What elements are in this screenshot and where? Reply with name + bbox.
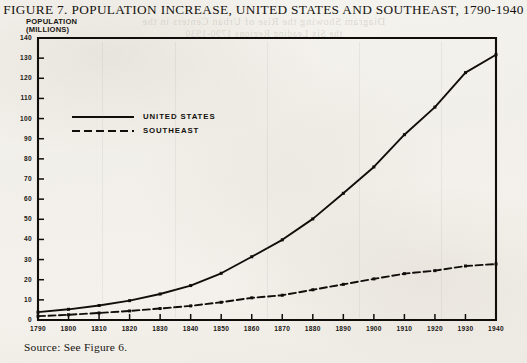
legend-label-united-states: UNITED STATES (143, 112, 216, 121)
y-axis-tick-label: 120 (6, 74, 32, 81)
data-point-marker (98, 304, 101, 307)
y-axis-tick-label: 60 (6, 195, 32, 202)
data-point-marker (342, 283, 345, 286)
chart-plot-area: 0102030405060708090100110120130140179018… (0, 0, 527, 363)
x-axis-tick-label: 1790 (22, 325, 54, 332)
data-point-marker (159, 293, 162, 296)
data-point-marker (281, 238, 284, 241)
x-axis-tick-label: 1860 (236, 325, 268, 332)
y-axis-tick-label: 90 (6, 135, 32, 142)
x-axis-tick-label: 1940 (480, 325, 512, 332)
y-axis-tick-label: 10 (6, 296, 32, 303)
data-point-marker (189, 304, 192, 307)
y-axis-tick-label: 0 (6, 316, 32, 323)
x-axis-tick-label: 1830 (144, 325, 176, 332)
data-point-marker (128, 299, 131, 302)
ghost-gridline (175, 42, 176, 318)
x-axis-tick-label: 1810 (83, 325, 115, 332)
y-axis-tick-label: 110 (6, 94, 32, 101)
ghost-gridline (359, 42, 360, 318)
figure-page: Diagram Showing the Rise of Urban Center… (0, 0, 527, 363)
x-axis-tick-label: 1850 (205, 325, 237, 332)
y-axis-tick-label: 20 (6, 276, 32, 283)
y-axis-tick-label: 140 (6, 34, 32, 41)
chart-svg (0, 0, 527, 363)
data-point-marker (464, 71, 467, 74)
ghost-gridline (102, 42, 103, 318)
data-point-marker (433, 269, 436, 272)
data-point-marker (250, 296, 253, 299)
data-point-marker (250, 255, 253, 258)
x-axis-tick-label: 1800 (53, 325, 85, 332)
data-point-marker (67, 313, 70, 316)
ghost-gridline (441, 42, 442, 318)
data-point-marker (372, 165, 375, 168)
legend-label-southeast: SOUTHEAST (143, 126, 199, 135)
y-axis-tick-label: 80 (6, 155, 32, 162)
data-point-marker (372, 277, 375, 280)
x-axis-tick-label: 1840 (175, 325, 207, 332)
data-point-marker (495, 53, 498, 56)
data-point-marker (281, 294, 284, 297)
x-axis-tick-label: 1920 (419, 325, 451, 332)
data-point-marker (37, 311, 40, 314)
data-point-marker (220, 272, 223, 275)
y-axis-tick-label: 130 (6, 54, 32, 61)
x-axis-tick-label: 1870 (266, 325, 298, 332)
source-note: Source: See Figure 6. (24, 341, 127, 353)
x-axis-tick-label: 1900 (358, 325, 390, 332)
data-point-marker (403, 133, 406, 136)
x-axis-tick-label: 1930 (449, 325, 481, 332)
x-axis-tick-label: 1890 (327, 325, 359, 332)
data-point-marker (98, 311, 101, 314)
data-point-marker (67, 308, 70, 311)
y-axis-tick-label: 50 (6, 215, 32, 222)
data-point-marker (342, 192, 345, 195)
data-point-marker (311, 288, 314, 291)
x-axis-tick-label: 1820 (114, 325, 146, 332)
data-point-marker (311, 217, 314, 220)
y-axis-tick-label: 70 (6, 175, 32, 182)
data-point-marker (128, 309, 131, 312)
data-point-marker (220, 301, 223, 304)
x-axis-tick-label: 1910 (388, 325, 420, 332)
ghost-gridline (267, 42, 268, 318)
data-point-marker (495, 263, 498, 266)
data-point-marker (433, 106, 436, 109)
data-point-marker (159, 307, 162, 310)
data-point-marker (189, 284, 192, 287)
y-axis-tick-label: 30 (6, 256, 32, 263)
y-axis-tick-label: 40 (6, 235, 32, 242)
x-axis-tick-label: 1880 (297, 325, 329, 332)
y-axis-tick-label: 100 (6, 115, 32, 122)
data-point-marker (464, 265, 467, 268)
data-point-marker (37, 315, 40, 318)
data-point-marker (403, 272, 406, 275)
